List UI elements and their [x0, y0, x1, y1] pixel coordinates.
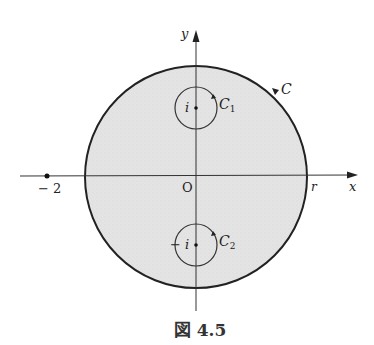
figure-caption: 図 4.5 — [0, 316, 374, 341]
y-axis-arrow-icon — [193, 30, 200, 42]
x-axis-arrow-icon — [347, 172, 358, 179]
point-minus-2 — [45, 174, 50, 179]
C-direction-arrow-icon — [272, 88, 279, 95]
x-axis-label: x — [349, 179, 357, 194]
minus-i-label: − i — [170, 237, 189, 252]
contour-diagram: y x O − 2 r C i C1 − i C2 — [0, 0, 374, 345]
r-label: r — [311, 180, 318, 194]
i-label: i — [185, 100, 189, 115]
origin-label: O — [182, 180, 193, 195]
y-axis-label: y — [180, 26, 189, 41]
minus-2-label: − 2 — [38, 181, 61, 196]
point-i — [194, 106, 198, 110]
point-minus-i — [194, 243, 198, 247]
C-label: C — [281, 81, 292, 97]
